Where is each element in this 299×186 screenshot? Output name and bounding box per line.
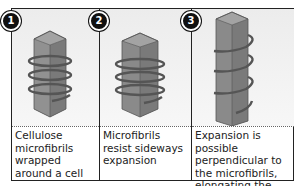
panel-1: Cellulose microfibrils wrapped around a … <box>12 9 99 180</box>
panel-1-caption: Cellulose microfibrils wrapped around a … <box>15 129 97 179</box>
step-3-badge: 3 <box>181 11 201 31</box>
diagram-frame: Cellulose microfibrils wrapped around a … <box>11 8 294 181</box>
panel-2: Microfibrils resist sideways expansion <box>100 9 191 180</box>
cell-with-microfibrils-icon <box>100 9 191 126</box>
panel-2-caption: Microfibrils resist sideways expansion <box>103 129 189 167</box>
panel-3-caption: Expansion is possible perpendicular to t… <box>195 129 292 186</box>
panel-2-illustration-area <box>100 9 191 126</box>
panel-2-separator <box>100 126 191 127</box>
elongated-cell-with-microfibrils-icon <box>192 9 294 126</box>
panel-1-illustration-area <box>12 9 99 126</box>
panel-1-separator <box>12 126 99 127</box>
panel-3: Expansion is possible perpendicular to t… <box>192 9 294 180</box>
panel-3-separator <box>192 126 294 127</box>
step-2-badge: 2 <box>89 11 109 31</box>
cell-with-microfibrils-icon <box>12 9 99 126</box>
panel-3-illustration-area <box>192 9 294 126</box>
step-1-badge: 1 <box>1 11 21 31</box>
